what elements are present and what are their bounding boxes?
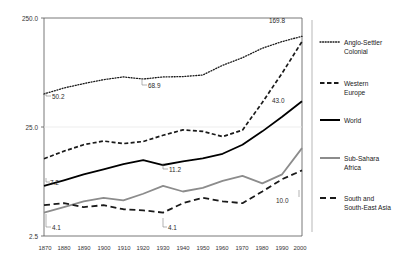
legend-label-line2: Africa — [344, 164, 361, 171]
legend-item-sub-sahara-africa[interactable]: Sub-Sahara Africa — [320, 155, 380, 171]
leader-4-1-sea — [163, 218, 167, 227]
x-axis-tick-1940: 1940 — [176, 245, 190, 251]
y-axis-tick-2-5: 2.5 — [29, 233, 38, 240]
legend: Anglo-Settler Colonial Western Europe Wo… — [312, 20, 391, 232]
legend-label-line2: Colonial — [344, 48, 368, 55]
x-axis-tick-1970: 1970 — [235, 245, 249, 251]
x-axis-tick-1900: 1900 — [97, 245, 111, 251]
series-line-anglo-settler-colonial — [44, 36, 302, 94]
x-axis-tick-1910: 1910 — [117, 245, 131, 251]
x-axis-tick-1960: 1960 — [215, 245, 229, 251]
x-axis-tick-1950: 1950 — [196, 245, 210, 251]
legend-label-line2: Europe — [344, 89, 366, 97]
legend-item-south-and-south-east-asia[interactable]: South and South-East Asia — [320, 195, 391, 211]
legend-label-line1: Anglo-Settler — [344, 39, 383, 47]
y-axis-tick-25: 25.0 — [26, 124, 39, 131]
annotation-7-2: 7.2 — [50, 179, 59, 186]
y-axis-tick-250: 250.0 — [22, 15, 38, 22]
annotation-43-0: 43.0 — [272, 97, 285, 104]
x-axis-tick-1870: 1870 — [38, 245, 52, 251]
legend-item-world[interactable]: World — [320, 117, 361, 124]
x-axis-tick-2000: 2000 — [293, 245, 307, 251]
legend-label-line1: Sub-Sahara — [344, 155, 380, 162]
series-line-world — [44, 101, 302, 186]
annotation-10-0: 10.0 — [276, 197, 289, 204]
legend-item-anglo-settler-colonial[interactable]: Anglo-Settler Colonial — [320, 39, 383, 55]
x-axis-tick-1980: 1980 — [255, 245, 269, 251]
annotation-169-8: 169.8 — [269, 17, 285, 24]
x-axis-tick-1920: 1920 — [136, 245, 150, 251]
series-line-sub-sahara-africa — [44, 148, 302, 212]
annotation-4-1-sub-sahara: 4.1 — [52, 224, 61, 231]
x-axis-tick-1880: 1880 — [57, 245, 71, 251]
leader-4-1-ssa — [46, 214, 51, 227]
x-axis-tick-1890: 1890 — [77, 245, 91, 251]
line-chart: 250.0 25.0 2.5 1870 1880 1890 1900 1910 … — [0, 0, 394, 268]
x-axis-tick-1930: 1930 — [156, 245, 170, 251]
x-axis-tick-1990: 1990 — [275, 245, 289, 251]
series-line-south-and-south-east-asia — [44, 170, 302, 212]
legend-label-line1: World — [344, 117, 361, 124]
chart-container: 250.0 25.0 2.5 1870 1880 1890 1900 1910 … — [0, 0, 394, 268]
legend-label-line1: Western — [344, 80, 369, 87]
annotation-68-9: 68.9 — [148, 82, 161, 89]
series-group — [44, 36, 302, 212]
annotation-50-2: 50.2 — [52, 93, 65, 100]
series-line-western-europe — [44, 42, 302, 159]
annotation-11-2: 11.2 — [169, 166, 181, 173]
annotation-4-1-south-asia: 4.1 — [168, 224, 177, 231]
legend-label-line2: South-East Asia — [344, 204, 391, 211]
legend-item-western-europe[interactable]: Western Europe — [320, 80, 369, 97]
legend-label-line1: South and — [344, 195, 374, 202]
